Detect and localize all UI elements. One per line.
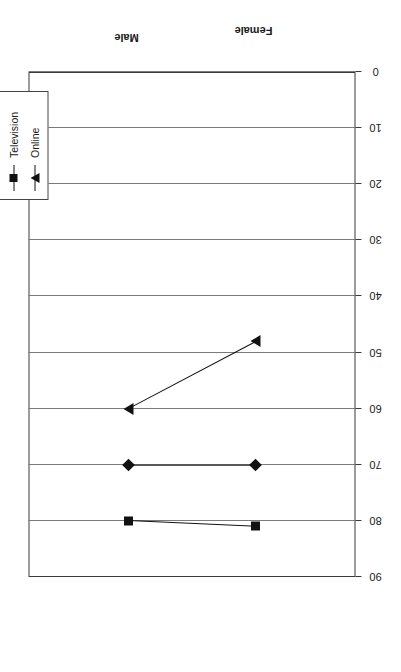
chart-figure: 9080706050403020100 FemaleMale Newspaper… bbox=[0, 0, 401, 672]
square-marker-icon bbox=[251, 522, 260, 531]
square-marker-icon bbox=[123, 516, 132, 525]
series-line-online bbox=[128, 341, 256, 410]
triangle-marker-icon bbox=[30, 173, 39, 183]
diamond-marker-icon bbox=[121, 458, 134, 471]
legend-key bbox=[28, 165, 40, 191]
legend-label: Online bbox=[28, 128, 40, 158]
legend-item-television[interactable]: Television bbox=[6, 100, 20, 191]
rotated-chart-stage: 9080706050403020100 FemaleMale Newspaper… bbox=[0, 0, 401, 672]
legend-label: Television bbox=[7, 112, 19, 158]
series-line-newspapers bbox=[128, 464, 256, 465]
diamond-marker-icon bbox=[249, 458, 262, 471]
chart-legend: NewspapersTelevisionOnline bbox=[0, 91, 48, 200]
square-marker-icon bbox=[9, 174, 17, 182]
legend-key bbox=[7, 165, 19, 191]
series-line-television bbox=[128, 520, 256, 527]
triangle-marker-icon bbox=[123, 403, 133, 415]
legend-item-online[interactable]: Online bbox=[27, 100, 41, 191]
data-series-layer bbox=[0, 0, 401, 672]
triangle-marker-icon bbox=[250, 335, 260, 347]
